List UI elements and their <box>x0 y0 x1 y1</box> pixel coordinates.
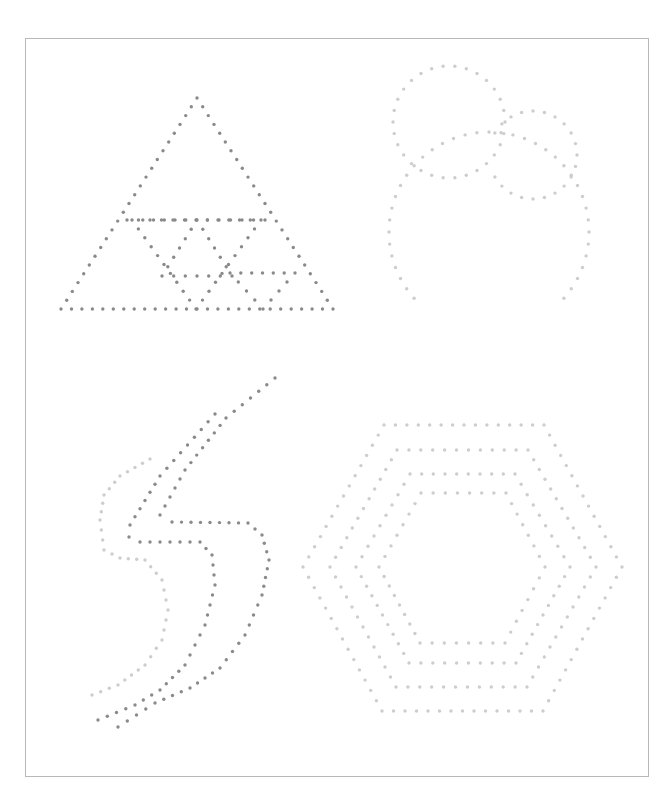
trace-dot <box>272 271 275 274</box>
trace-dot <box>198 540 201 543</box>
trace-dot <box>239 271 242 274</box>
trace-dot <box>201 298 204 301</box>
trace-dot <box>293 271 296 274</box>
trace-dot <box>531 675 534 678</box>
trace-dot <box>143 663 146 666</box>
trace-dot <box>346 648 349 651</box>
trace-dot <box>330 515 333 518</box>
trace-dot <box>206 218 209 221</box>
trace-dot <box>466 685 469 688</box>
trace-dot <box>410 79 413 82</box>
trace-dot <box>365 454 368 457</box>
trace-dot <box>360 555 363 558</box>
trace-dot <box>264 576 267 579</box>
trace-dot <box>96 718 99 721</box>
trace-dot <box>265 383 268 386</box>
trace-dot <box>547 604 550 607</box>
trace-dot <box>59 307 62 310</box>
trace-dot <box>543 478 546 481</box>
trace-dot <box>313 545 316 548</box>
trace-dot <box>128 523 131 526</box>
trace-dot <box>283 271 286 274</box>
trace-dot <box>562 164 565 167</box>
trace-dot <box>300 307 303 310</box>
trace-dot <box>532 587 535 590</box>
trace-dot <box>390 206 393 209</box>
trace-dot <box>362 507 365 510</box>
trace-dot <box>584 206 587 209</box>
trace-dot <box>479 641 482 644</box>
trace-dot <box>509 115 512 118</box>
trace-dot <box>165 682 168 685</box>
trace-dot <box>307 576 310 579</box>
trace-dot <box>503 448 506 451</box>
trace-dot <box>402 87 405 90</box>
trace-dot <box>182 290 185 293</box>
trace-dot <box>583 546 586 549</box>
trace-dot <box>195 218 198 221</box>
trace-dot <box>258 307 261 310</box>
trace-dot <box>566 615 569 618</box>
trace-dot <box>168 540 171 543</box>
trace-dot <box>65 299 68 302</box>
trace-dot <box>353 474 356 477</box>
trace-dot <box>547 699 550 702</box>
trace-dot <box>233 254 236 257</box>
trace-dot <box>478 472 481 475</box>
trace-dot <box>443 661 446 664</box>
trace-dot <box>76 281 79 284</box>
trace-dot <box>201 228 204 231</box>
trace-dot <box>350 605 353 608</box>
trace-dot <box>188 686 191 689</box>
trace-dot <box>390 458 393 461</box>
trace-dot <box>150 693 153 696</box>
trace-dot <box>160 274 163 277</box>
trace-dot <box>252 613 255 616</box>
trace-dot <box>453 176 456 179</box>
trace-dot <box>207 439 210 442</box>
trace-dot <box>133 307 136 310</box>
trace-dot <box>521 523 524 526</box>
trace-dot <box>277 289 280 292</box>
trace-dot <box>130 673 133 676</box>
trace-dot <box>286 237 289 240</box>
trace-dot <box>570 658 573 661</box>
trace-dot <box>152 218 155 221</box>
trace-dot <box>100 510 103 513</box>
trace-dot <box>297 255 300 258</box>
trace-dot <box>267 558 270 561</box>
trace-dot <box>537 665 540 668</box>
trace-dot <box>444 491 447 494</box>
shape-hex-2 <box>328 448 597 688</box>
trace-dot <box>260 593 263 596</box>
trace-dot <box>430 174 433 177</box>
trace-dot <box>609 545 612 548</box>
trace-dot <box>175 281 178 284</box>
trace-dot <box>587 504 590 507</box>
trace-dot <box>155 647 158 650</box>
trace-dot <box>127 202 130 205</box>
trace-dot <box>515 512 518 515</box>
trace-dot <box>499 143 502 146</box>
trace-dot <box>82 272 85 275</box>
trace-dot <box>491 661 494 664</box>
trace-dot <box>126 719 129 722</box>
trace-dot <box>336 504 339 507</box>
trace-dot <box>504 491 507 494</box>
trace-dot <box>250 271 253 274</box>
trace-dot <box>180 520 183 523</box>
trace-dot <box>401 523 404 526</box>
trace-dot <box>598 525 601 528</box>
trace-dot <box>318 596 321 599</box>
trace-dot <box>321 307 324 310</box>
trace-dot <box>520 111 523 114</box>
trace-dot <box>143 236 146 239</box>
trace-dot <box>509 630 512 633</box>
trace-dot <box>384 514 387 517</box>
trace-dot <box>93 255 96 258</box>
trace-dot <box>559 454 562 457</box>
trace-dot <box>258 193 261 196</box>
trace-dot <box>370 594 373 597</box>
trace-dot <box>110 552 113 555</box>
trace-dot <box>415 709 418 712</box>
